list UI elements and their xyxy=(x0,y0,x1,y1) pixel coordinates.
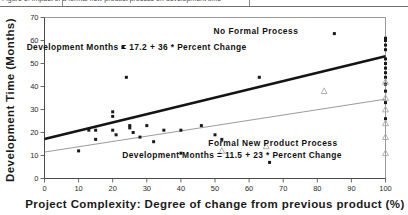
data-point xyxy=(94,138,97,141)
data-point xyxy=(258,76,261,79)
data-point xyxy=(179,129,182,132)
annotation-group-a-title: No Formal Process xyxy=(213,26,298,36)
data-point xyxy=(111,115,114,118)
data-point xyxy=(384,71,387,74)
chart-annotations: No Formal ProcessDevelopment Months = 17… xyxy=(27,26,342,160)
x-tick-label: 70 xyxy=(279,184,287,193)
data-point xyxy=(111,129,114,132)
data-point xyxy=(384,101,387,104)
data-point xyxy=(111,110,114,113)
x-tick-label: 0 xyxy=(42,184,46,193)
y-tick-label: 50 xyxy=(30,59,38,68)
x-tick-label: 100 xyxy=(379,184,392,193)
regression-line-no-formal-process xyxy=(45,56,386,139)
figure-caption-text: Figure 1. Impact of a formal new product… xyxy=(2,0,221,2)
y-tick-label: 20 xyxy=(30,128,38,137)
y-tick-label: 70 xyxy=(30,13,38,22)
y-tick-label: 0 xyxy=(34,174,38,183)
data-point xyxy=(268,161,271,164)
data-point xyxy=(384,57,387,60)
y-tick-label: 30 xyxy=(30,105,38,114)
data-point xyxy=(152,140,155,143)
annotation-group-a-equation: Development Months = 17.2 + 36 * Percent… xyxy=(27,42,247,52)
y-axis: 010203040506070 xyxy=(30,13,44,183)
x-tick-label: 40 xyxy=(177,184,185,193)
figure-caption-strip: Figure 1. Impact of a formal new product… xyxy=(0,0,408,7)
data-point xyxy=(384,62,387,65)
data-point xyxy=(128,126,131,129)
data-point xyxy=(384,48,387,51)
x-axis-label: Project Complexity: Degree of change fro… xyxy=(25,198,404,210)
x-tick-label: 50 xyxy=(211,184,219,193)
data-point xyxy=(214,133,217,136)
x-tick-label: 30 xyxy=(143,184,151,193)
y-tick-label: 40 xyxy=(30,82,38,91)
scatter-plot: 010203040506070 0102030405060708090100 N… xyxy=(0,0,408,215)
data-point xyxy=(145,124,148,127)
x-axis: 0102030405060708090100 xyxy=(42,179,391,193)
data-point xyxy=(384,44,387,47)
y-tick-label: 10 xyxy=(30,151,38,160)
data-point xyxy=(333,32,336,35)
x-tick-label: 60 xyxy=(245,184,253,193)
data-point xyxy=(115,133,118,136)
data-point xyxy=(87,129,90,132)
figure-container: Figure 1. Impact of a formal new product… xyxy=(0,0,408,215)
data-point xyxy=(384,39,387,42)
data-point xyxy=(77,149,80,152)
data-point xyxy=(384,67,387,70)
data-point xyxy=(384,90,387,93)
data-point xyxy=(125,76,128,79)
annotation-group-b-equation: Development Months = 11.5 + 23 * Percent… xyxy=(122,150,341,160)
x-tick-label: 10 xyxy=(74,184,82,193)
data-point xyxy=(162,129,165,132)
data-point xyxy=(94,129,97,132)
data-point xyxy=(132,131,135,134)
annotation-group-b-title: Formal New Product Process xyxy=(208,138,337,148)
data-point xyxy=(138,136,141,139)
x-tick-label: 20 xyxy=(109,184,117,193)
y-axis-label: Development Time (Months) xyxy=(4,18,16,182)
x-tick-label: 80 xyxy=(313,184,321,193)
caption-rule xyxy=(0,6,408,7)
x-tick-label: 90 xyxy=(347,184,355,193)
data-point xyxy=(321,88,327,94)
data-point xyxy=(200,124,203,127)
